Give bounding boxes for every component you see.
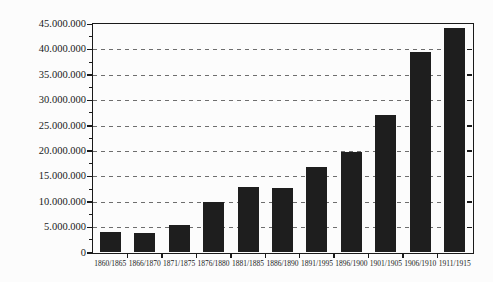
y-axis-major-tick	[87, 150, 93, 152]
x-axis-tick	[161, 253, 163, 258]
bar	[306, 167, 327, 253]
y-axis-label: 30.000.000	[0, 94, 86, 106]
right-frame-tick	[467, 125, 472, 127]
y-axis-minor-tick	[89, 214, 93, 215]
y-axis-label: 35.000.000	[0, 69, 86, 81]
y-axis-label: 45.000.000	[0, 18, 86, 30]
y-axis-major-tick	[87, 125, 93, 127]
x-axis-tick	[368, 253, 370, 258]
x-axis-tick	[265, 253, 267, 258]
x-axis-label: 1911/1915	[425, 259, 485, 268]
y-axis-minor-tick	[89, 36, 93, 37]
y-axis-major-tick	[87, 201, 93, 203]
bar	[238, 187, 259, 253]
bar	[272, 188, 293, 252]
bar-chart-figure: 45.000.00040.000.00035.000.00030.000.000…	[0, 0, 493, 282]
y-axis-label: 15.000.000	[0, 170, 86, 182]
y-axis-label: 40.000.000	[0, 43, 86, 55]
y-axis-minor-tick	[89, 138, 93, 139]
right-frame-tick	[467, 150, 472, 152]
y-axis-major-tick	[87, 176, 93, 178]
right-frame-tick	[467, 100, 472, 102]
y-axis-major-tick	[87, 24, 93, 26]
y-axis-major-tick	[87, 252, 93, 254]
y-axis-minor-tick	[89, 62, 93, 63]
y-axis-major-tick	[87, 74, 93, 76]
y-axis-label: 10.000.000	[0, 196, 86, 208]
bar	[169, 225, 190, 252]
y-axis-minor-tick	[89, 239, 93, 240]
y-axis-minor-tick	[89, 112, 93, 113]
bar	[203, 202, 224, 252]
bar	[134, 233, 155, 252]
y-axis-major-tick	[87, 100, 93, 102]
bar	[100, 232, 121, 253]
gridline	[93, 49, 472, 50]
x-axis-tick	[333, 253, 335, 258]
bar	[410, 52, 431, 252]
right-frame-tick	[467, 227, 472, 229]
x-axis-tick	[196, 253, 198, 258]
right-frame-tick	[467, 201, 472, 203]
y-axis-label: 25.000.000	[0, 120, 86, 132]
y-axis-minor-tick	[89, 189, 93, 190]
y-axis-major-tick	[87, 49, 93, 51]
bar-chart: 45.000.00040.000.00035.000.00030.000.000…	[0, 0, 493, 282]
y-axis-major-tick	[87, 227, 93, 229]
y-axis-minor-tick	[89, 87, 93, 88]
x-axis-tick	[299, 253, 301, 258]
right-frame-tick	[467, 74, 472, 76]
x-axis-tick	[437, 253, 439, 258]
x-axis-tick	[127, 253, 129, 258]
x-axis-tick	[402, 253, 404, 258]
right-frame-tick	[467, 176, 472, 178]
bar	[375, 115, 396, 252]
bar	[341, 152, 362, 253]
bar	[444, 28, 465, 253]
right-frame-tick	[467, 49, 472, 51]
x-axis-tick	[230, 253, 232, 258]
y-axis-label: 5.000.000	[0, 221, 86, 233]
y-axis-label: 0	[0, 247, 86, 259]
y-axis-label: 20.000.000	[0, 145, 86, 157]
y-axis-minor-tick	[89, 163, 93, 164]
